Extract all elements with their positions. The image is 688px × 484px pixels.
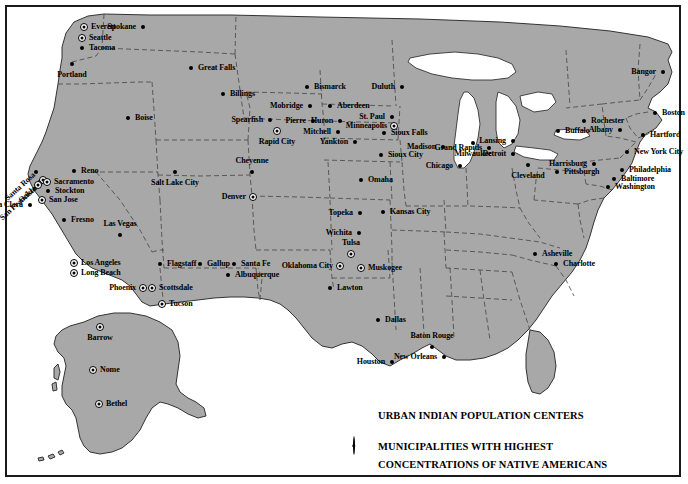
city-label: Philadelphia bbox=[629, 166, 671, 174]
urban-center-dot-icon bbox=[554, 262, 558, 266]
map-figure: .land{fill:#a8a8a8;stroke:#333;stroke-wi… bbox=[0, 0, 688, 484]
municipality-ring-icon bbox=[96, 323, 104, 331]
city-label: Santa Fe bbox=[241, 260, 270, 268]
city-label: Nome bbox=[100, 366, 120, 374]
urban-center-dot-icon bbox=[533, 252, 537, 256]
urban-center-dot-icon bbox=[511, 152, 515, 156]
municipality-ring-icon bbox=[148, 284, 156, 292]
city-label: Chicago bbox=[426, 162, 453, 170]
legend-row-municipalities: MUNICIPALITIES WITH HIGHESTCONCENTRATION… bbox=[352, 436, 652, 472]
municipality-ring-icon bbox=[70, 269, 78, 277]
urban-center-dot-icon bbox=[612, 177, 616, 181]
city-label: Yankton bbox=[320, 138, 348, 146]
city-label: Lansing bbox=[479, 137, 506, 145]
city-label: Omaha bbox=[368, 176, 393, 184]
urban-center-dot-icon bbox=[653, 111, 657, 115]
city-label: Bismarck bbox=[314, 83, 346, 91]
city-label: San Jose bbox=[49, 196, 78, 204]
city-label: Denver bbox=[222, 193, 246, 201]
city-label: Tacoma bbox=[89, 44, 115, 52]
alaska-aleutian-islands bbox=[38, 450, 64, 461]
urban-center-dot-icon bbox=[308, 104, 312, 108]
alaska-landmass bbox=[54, 313, 206, 454]
city-label: Sioux City bbox=[388, 151, 423, 159]
urban-center-dot-icon bbox=[268, 118, 272, 122]
urban-center-dot-icon bbox=[328, 104, 332, 108]
map-legend: URBAN INDIAN POPULATION CENTERS MUNICIPA… bbox=[352, 405, 652, 484]
urban-center-dot-icon bbox=[80, 46, 84, 50]
city-label: Aberdeen bbox=[337, 102, 370, 110]
urban-center-dot-icon bbox=[338, 119, 342, 123]
urban-center-dot-icon bbox=[390, 115, 394, 119]
urban-center-dot-icon bbox=[511, 139, 515, 143]
city-label: Great Falls bbox=[198, 64, 235, 72]
city-label: Cheyenne bbox=[236, 157, 269, 165]
city-label: Spearfish bbox=[231, 116, 263, 124]
legend-label-urban-centers: URBAN INDIAN POPULATION CENTERS bbox=[378, 410, 584, 421]
urban-center-dot-icon bbox=[400, 85, 404, 89]
urban-center-dot-icon bbox=[606, 185, 610, 189]
urban-center-dot-icon bbox=[357, 231, 361, 235]
city-label: Albuquerque bbox=[235, 271, 279, 279]
urban-center-dot-icon bbox=[358, 211, 362, 215]
urban-center-dot-icon bbox=[582, 119, 586, 123]
urban-center-dot-icon bbox=[661, 70, 665, 74]
urban-center-dot-icon bbox=[430, 345, 434, 349]
urban-center-dot-icon bbox=[381, 210, 385, 214]
city-label: Boise bbox=[135, 114, 153, 122]
city-label: Long Beach bbox=[81, 269, 121, 277]
municipality-ring-icon bbox=[158, 300, 166, 308]
city-label: Detroit bbox=[482, 150, 506, 158]
city-label: Kansas City bbox=[390, 208, 430, 216]
city-label: Tucson bbox=[169, 300, 193, 308]
legend-ring-icon bbox=[355, 439, 357, 457]
city-label: St. Paul bbox=[359, 113, 385, 121]
urban-center-dot-icon bbox=[382, 131, 386, 135]
municipality-ring-icon bbox=[139, 284, 147, 292]
urban-center-dot-icon bbox=[158, 262, 162, 266]
city-label: Billings bbox=[230, 90, 255, 98]
city-label: Charlotte bbox=[563, 260, 595, 268]
city-label: Oklahoma City bbox=[282, 262, 333, 270]
city-label: Duluth bbox=[372, 83, 395, 91]
urban-center-dot-icon bbox=[226, 273, 230, 277]
city-label: Spokane bbox=[107, 23, 136, 31]
city-label: Hartford bbox=[650, 131, 680, 139]
city-label: Bethel bbox=[106, 400, 127, 408]
city-label: Mitchell bbox=[303, 128, 331, 136]
city-label: Baton Rouge bbox=[410, 332, 453, 340]
city-label: Gallup bbox=[207, 260, 230, 268]
urban-center-dot-icon bbox=[641, 133, 645, 137]
urban-center-dot-icon bbox=[556, 129, 560, 133]
urban-center-dot-icon bbox=[620, 168, 624, 172]
urban-center-dot-icon bbox=[555, 170, 559, 174]
florida-peninsula bbox=[526, 330, 556, 394]
urban-center-dot-icon bbox=[189, 66, 193, 70]
city-label: Huron bbox=[311, 117, 333, 125]
urban-center-dot-icon bbox=[359, 178, 363, 182]
urban-center-dot-icon bbox=[173, 170, 177, 174]
city-label: Los Angeles bbox=[81, 259, 121, 267]
urban-center-dot-icon bbox=[376, 318, 380, 322]
urban-center-dot-icon bbox=[141, 25, 145, 29]
city-label: Pittsburgh bbox=[564, 168, 599, 176]
city-label: New York City bbox=[634, 148, 683, 156]
urban-center-dot-icon bbox=[336, 130, 340, 134]
urban-center-dot-icon bbox=[328, 286, 332, 290]
urban-center-dot-icon bbox=[126, 116, 130, 120]
city-label: Las Vegas bbox=[103, 220, 136, 228]
city-label: Houston bbox=[357, 358, 385, 366]
municipality-ring-icon bbox=[357, 264, 365, 272]
city-label: Minneapolis bbox=[346, 122, 387, 130]
city-label: Boston bbox=[662, 109, 685, 117]
urban-center-dot-icon bbox=[379, 153, 383, 157]
city-label: Cleveland bbox=[511, 172, 544, 180]
municipality-ring-icon bbox=[347, 250, 355, 258]
urban-center-dot-icon bbox=[526, 163, 530, 167]
urban-center-dot-icon bbox=[28, 203, 32, 207]
municipality-ring-icon bbox=[89, 366, 97, 374]
city-label: Pierre bbox=[285, 117, 306, 125]
city-label: Rapid City bbox=[259, 138, 296, 146]
city-label: Lawton bbox=[337, 284, 363, 292]
municipality-ring-icon bbox=[95, 400, 103, 408]
